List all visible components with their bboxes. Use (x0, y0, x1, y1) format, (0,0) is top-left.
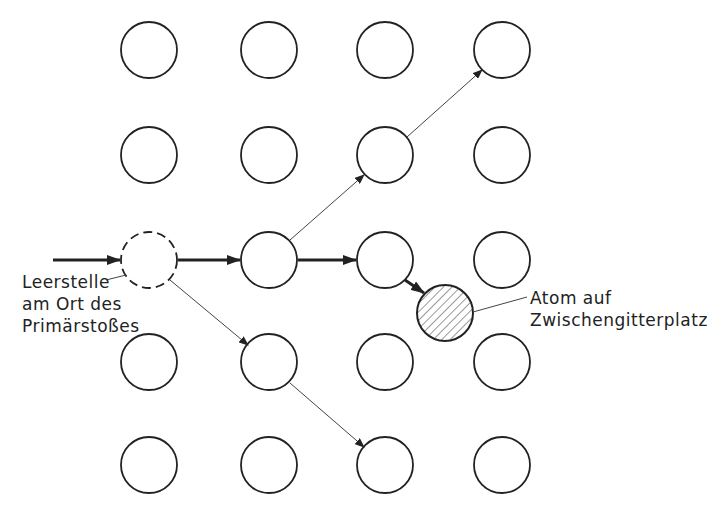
lattice-atom (241, 437, 297, 493)
lattice-diagram (0, 0, 719, 513)
collision-arrow (405, 280, 424, 293)
recoil-arrow (407, 70, 482, 137)
lattice-atom (474, 22, 530, 78)
lattice-atom (121, 334, 177, 390)
lattice-atom (357, 437, 413, 493)
interstitial-label: Atom auf Zwischengitterplatz (530, 287, 708, 331)
lattice-atom (121, 127, 177, 183)
lattice-atom (474, 437, 530, 493)
label-line: Zwischengitterplatz (530, 309, 708, 331)
lattice-atom (357, 127, 413, 183)
recoil-arrow (290, 175, 364, 240)
lattice-atom (241, 22, 297, 78)
lattice-atom (357, 22, 413, 78)
lattice-atom (241, 127, 297, 183)
interstitial-atom (417, 285, 473, 341)
recoil-arrow (290, 383, 364, 447)
lattice-atom (121, 22, 177, 78)
lattice-atom (474, 334, 530, 390)
lattice-atom (241, 232, 297, 288)
lattice-atom (474, 127, 530, 183)
lattice-atom (241, 334, 297, 390)
lattice-atom (357, 334, 413, 390)
vacancy-label: Leerstelle am Ort des Primärstoßes (22, 271, 140, 337)
label-line: Atom auf (530, 287, 708, 309)
lattice-atom (121, 437, 177, 493)
lattice-atom (474, 232, 530, 288)
label-line: Primärstoßes (22, 315, 140, 337)
recoil-arrow (170, 280, 248, 345)
lattice-atom (357, 232, 413, 288)
label-line: am Ort des (22, 293, 140, 315)
label-line: Leerstelle (22, 271, 140, 293)
leader-line (473, 297, 527, 312)
